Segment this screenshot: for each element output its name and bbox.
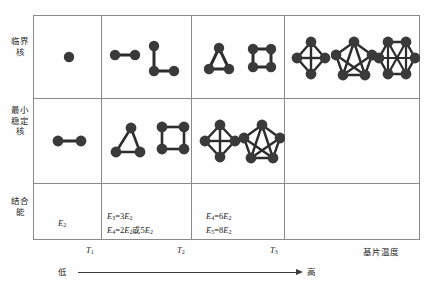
axis-arrow-head-icon xyxy=(296,269,303,275)
row-label-min-stable-nucleus: 最小稳定核 xyxy=(10,105,30,137)
grid-hline-1 xyxy=(34,98,419,99)
cluster-hexagon-r1c4 xyxy=(374,32,420,88)
figure-canvas: 临界核 最小稳定核 结合能 xyxy=(0,0,425,288)
axis-tick-T3: T3 xyxy=(270,245,278,255)
axis-tick-T1: T1 xyxy=(86,245,94,255)
cluster-l-trimer-r1c2 xyxy=(146,38,182,86)
diagram-grid: E2 E3=3E2 E4=2E2或5E2 E4=6E2 E5=8E2 xyxy=(33,15,420,240)
energy-formula-c3: E4=6E2 E5=8E2 xyxy=(206,210,231,238)
cluster-pentagon-r1c4 xyxy=(331,34,377,86)
cluster-triangle-r1c3 xyxy=(201,40,237,82)
cluster-triangle-r2c2 xyxy=(107,118,149,166)
energy-formula-c2: E3=3E2 E4=2E2或5E2 xyxy=(107,210,153,238)
row-label-binding-energy: 结合能 xyxy=(10,196,30,217)
axis-high-label: 高 xyxy=(307,265,316,277)
cluster-square-r1c3 xyxy=(245,41,279,81)
cluster-rhombus-r2c3 xyxy=(198,116,242,170)
grid-vline-1 xyxy=(101,16,102,239)
cluster-dimer-r2c1 xyxy=(50,129,90,157)
axis-arrow-line xyxy=(78,272,296,273)
cluster-monomer-r1c1 xyxy=(56,44,82,74)
cluster-dimer-r1c2 xyxy=(108,44,142,70)
axis-title-substrate-temperature: 基片温度 xyxy=(363,245,399,257)
cluster-square-r2c2 xyxy=(153,118,193,164)
row-label-critical-nucleus: 临界核 xyxy=(10,36,30,57)
energy-formula-c1: E2 xyxy=(58,217,66,231)
energy-formula-c3-line2: E5=8E2 xyxy=(206,224,231,238)
energy-formula-c2-line1: E3=3E2 xyxy=(107,210,153,224)
cluster-pentagon-r2c3 xyxy=(239,116,285,170)
grid-hline-2 xyxy=(34,183,419,184)
energy-formula-c3-line1: E4=6E2 xyxy=(206,210,231,224)
energy-formula-c2-line2: E4=2E2或5E2 xyxy=(107,224,153,238)
axis-low-label: 低 xyxy=(58,265,67,277)
cluster-rhombus-r1c4 xyxy=(290,34,332,86)
axis-tick-T2: T2 xyxy=(177,245,185,255)
